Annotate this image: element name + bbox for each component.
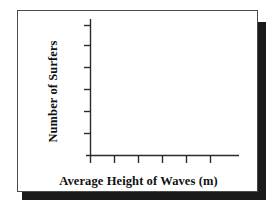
x-axis-ticks	[91, 156, 211, 164]
y-axis-ticks	[84, 26, 91, 134]
y-axis-label: Number of Surfers	[42, 11, 64, 171]
x-axis-label: Average Height of Waves (m)	[18, 174, 259, 189]
screenshot-root: Number of Surfers Average Height of Wave…	[0, 0, 274, 215]
y-axis-label-text: Number of Surfers	[46, 40, 61, 142]
chart-card: Number of Surfers Average Height of Wave…	[17, 10, 258, 192]
